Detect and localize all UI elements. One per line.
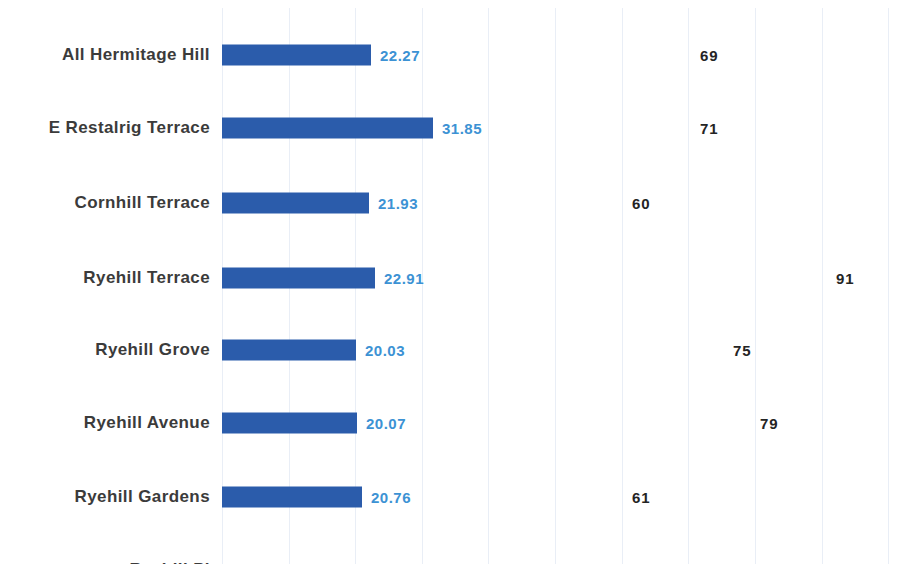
bar[interactable] — [222, 193, 369, 214]
chart-row: Ryehill Terrace22.9191 — [0, 258, 901, 298]
chart-row: Ryehill Grove20.0375 — [0, 330, 901, 370]
category-label: Ryehill Grove — [0, 340, 210, 360]
bar[interactable] — [222, 340, 356, 361]
bar[interactable] — [222, 268, 375, 289]
bar[interactable] — [222, 413, 357, 434]
category-label: Ryehill Avenue — [0, 413, 210, 433]
count-label: 75 — [733, 342, 752, 359]
bar-chart: All Hermitage Hill22.2769E Restalrig Ter… — [0, 0, 901, 564]
count-label: 69 — [700, 47, 719, 64]
category-label: All Hermitage Hill — [0, 45, 210, 65]
chart-row: Ryehill Pl59 — [0, 550, 901, 564]
bar[interactable] — [222, 118, 433, 139]
bar[interactable] — [222, 487, 362, 508]
bar-value-label: 22.91 — [384, 270, 424, 287]
count-label: 79 — [760, 415, 779, 432]
chart-row: Ryehill Avenue20.0779 — [0, 403, 901, 443]
chart-row: Ryehill Gardens20.7661 — [0, 477, 901, 517]
chart-row: Cornhill Terrace21.9360 — [0, 183, 901, 223]
category-label: Cornhill Terrace — [0, 193, 210, 213]
count-label: 61 — [632, 489, 651, 506]
bar-value-label: 31.85 — [442, 120, 482, 137]
chart-row: All Hermitage Hill22.2769 — [0, 35, 901, 75]
chart-row: E Restalrig Terrace31.8571 — [0, 108, 901, 148]
category-label: Ryehill Terrace — [0, 268, 210, 288]
bar-value-label: 22.27 — [380, 47, 420, 64]
category-label: Ryehill Gardens — [0, 487, 210, 507]
bar-value-label: 20.03 — [365, 342, 405, 359]
bar-value-label: 20.07 — [366, 415, 406, 432]
count-label: 71 — [700, 120, 719, 137]
count-label: 91 — [836, 270, 855, 287]
bar-value-label: 20.76 — [371, 489, 411, 506]
category-label: E Restalrig Terrace — [0, 118, 210, 138]
bar-value-label: 21.93 — [378, 195, 418, 212]
category-label: Ryehill Pl — [0, 560, 210, 564]
count-label: 60 — [632, 195, 651, 212]
bar[interactable] — [222, 45, 371, 66]
